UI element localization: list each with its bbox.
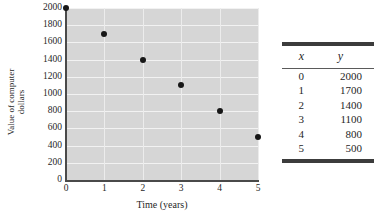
x-tick-label: 2 bbox=[133, 183, 153, 193]
table-row: 5500 bbox=[282, 141, 374, 156]
x-axis-line bbox=[65, 180, 259, 182]
column-header-y: y bbox=[321, 46, 374, 67]
table-row: 02000 bbox=[282, 69, 374, 84]
table-header-row: x y bbox=[282, 46, 374, 67]
table-bottom-rule bbox=[282, 159, 374, 163]
data-point bbox=[178, 82, 184, 88]
y-tick-label: 400 bbox=[28, 141, 62, 151]
data-point bbox=[140, 57, 146, 63]
table-row: 21400 bbox=[282, 98, 374, 113]
table-row: 31100 bbox=[282, 112, 374, 127]
column-header-x: x bbox=[282, 46, 321, 67]
horizontal-gridline bbox=[66, 163, 258, 164]
data-point bbox=[63, 5, 69, 11]
horizontal-gridline bbox=[66, 146, 258, 147]
xy-table-body: 0200011700214003110048005500 bbox=[282, 69, 374, 156]
y-axis-line bbox=[65, 8, 67, 181]
cell-x: 1 bbox=[282, 83, 321, 98]
x-axis-label: Time (years) bbox=[66, 199, 258, 210]
vertical-gridline bbox=[181, 8, 182, 180]
y-tick-label: 200 bbox=[28, 158, 62, 168]
x-tick-label: 3 bbox=[171, 183, 191, 193]
scatter-plot-figure: 0200400600800100012001400160018002000 Ti… bbox=[0, 0, 272, 220]
y-tick-label: 1200 bbox=[28, 72, 62, 82]
data-point bbox=[255, 134, 261, 140]
x-tick-label: 1 bbox=[94, 183, 114, 193]
cell-y: 1400 bbox=[321, 98, 374, 113]
y-tick-label: 600 bbox=[28, 124, 62, 134]
table-row: 4800 bbox=[282, 127, 374, 142]
horizontal-gridline bbox=[66, 8, 258, 9]
y-axis-label-line1: Value of computer bbox=[6, 69, 16, 135]
y-tick-label: 1000 bbox=[28, 89, 62, 99]
cell-y: 1100 bbox=[321, 112, 374, 127]
x-tick-label: 5 bbox=[248, 183, 268, 193]
horizontal-gridline bbox=[66, 60, 258, 61]
data-point bbox=[101, 31, 107, 37]
horizontal-gridline bbox=[66, 94, 258, 95]
vertical-gridline bbox=[220, 8, 221, 180]
cell-y: 2000 bbox=[321, 69, 374, 84]
cell-y: 1700 bbox=[321, 83, 374, 98]
x-tick-label: 0 bbox=[56, 183, 76, 193]
y-tick-label: 800 bbox=[28, 106, 62, 116]
cell-x: 3 bbox=[282, 112, 321, 127]
data-point bbox=[217, 108, 223, 114]
cell-x: 5 bbox=[282, 141, 321, 156]
vertical-gridline bbox=[258, 8, 259, 180]
table-row: 11700 bbox=[282, 83, 374, 98]
y-axis-label: Value of computer dollars bbox=[6, 42, 26, 162]
data-table: x y 0200011700214003110048005500 bbox=[282, 42, 374, 163]
cell-x: 0 bbox=[282, 69, 321, 84]
cell-x: 2 bbox=[282, 98, 321, 113]
y-tick-label: 1400 bbox=[28, 55, 62, 65]
y-axis-label-line2: dollars bbox=[16, 42, 26, 162]
cell-x: 4 bbox=[282, 127, 321, 142]
cell-y: 500 bbox=[321, 141, 374, 156]
horizontal-gridline bbox=[66, 111, 258, 112]
x-tick-label: 4 bbox=[210, 183, 230, 193]
vertical-gridline bbox=[143, 8, 144, 180]
horizontal-gridline bbox=[66, 77, 258, 78]
y-tick-label: 2000 bbox=[28, 3, 62, 13]
horizontal-gridline bbox=[66, 128, 258, 129]
cell-y: 800 bbox=[321, 127, 374, 142]
xy-table: x y bbox=[282, 46, 374, 67]
plot-area bbox=[66, 8, 258, 180]
y-tick-label: 1600 bbox=[28, 38, 62, 48]
horizontal-gridline bbox=[66, 25, 258, 26]
horizontal-gridline bbox=[66, 42, 258, 43]
figure-page: 0200400600800100012001400160018002000 Ti… bbox=[0, 0, 384, 220]
y-tick-label: 1800 bbox=[28, 20, 62, 30]
